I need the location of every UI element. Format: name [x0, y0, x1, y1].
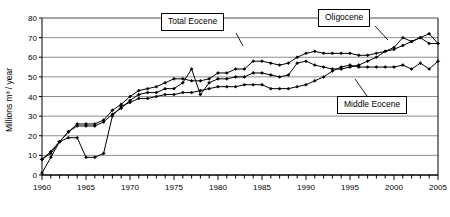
data-point — [155, 85, 158, 88]
data-point — [146, 87, 149, 90]
data-point — [252, 83, 255, 86]
data-point — [313, 79, 316, 82]
data-point — [155, 91, 158, 94]
data-point — [384, 66, 387, 69]
data-point — [357, 66, 360, 69]
data-point — [366, 66, 369, 69]
data-point — [234, 75, 237, 78]
series-line-middle-eocene — [42, 61, 438, 173]
data-point — [234, 85, 237, 88]
data-point — [410, 40, 413, 43]
svg-text:2005: 2005 — [429, 183, 447, 192]
data-point — [243, 75, 246, 78]
data-point — [322, 66, 325, 69]
data-point — [357, 54, 360, 57]
data-point — [173, 93, 176, 96]
svg-text:2000: 2000 — [385, 183, 403, 192]
data-point — [225, 77, 228, 80]
data-point — [349, 64, 352, 67]
callout-label-total-eocene[interactable]: Total Eocene — [161, 13, 224, 31]
data-point — [366, 60, 369, 63]
data-point — [146, 91, 149, 94]
data-point — [208, 87, 211, 90]
data-point — [225, 85, 228, 88]
data-point — [164, 93, 167, 96]
data-point — [278, 64, 281, 67]
data-point — [199, 79, 202, 82]
chart-container: 01020304050607080 1960196519701975198019… — [0, 0, 450, 217]
data-point — [261, 71, 264, 74]
data-point — [261, 83, 264, 86]
data-point — [340, 66, 343, 69]
data-point — [366, 54, 369, 57]
x-axis-tick-labels: 1960196519701975198019851990199520002005 — [33, 183, 447, 192]
data-point — [155, 95, 158, 98]
data-point — [401, 44, 404, 47]
data-point — [305, 60, 308, 63]
callout-label-oligocene[interactable]: Oligocene — [318, 9, 370, 27]
data-point — [181, 77, 184, 80]
svg-text:20: 20 — [28, 132, 37, 141]
data-point — [393, 66, 396, 69]
callout-label-middle-eocene[interactable]: Middle Eocene — [337, 96, 407, 114]
data-point — [217, 77, 220, 80]
data-point — [269, 87, 272, 90]
svg-text:10: 10 — [28, 151, 37, 160]
data-point — [181, 91, 184, 94]
svg-text:1980: 1980 — [209, 183, 227, 192]
data-point — [67, 136, 70, 139]
svg-text:30: 30 — [28, 112, 37, 121]
data-point — [93, 124, 96, 127]
data-point — [217, 85, 220, 88]
data-point — [322, 52, 325, 55]
svg-text:40: 40 — [28, 93, 37, 102]
y-axis-tick-labels: 01020304050607080 — [28, 14, 37, 180]
data-point — [296, 85, 299, 88]
data-point — [331, 52, 334, 55]
data-point — [146, 97, 149, 100]
svg-text:70: 70 — [28, 34, 37, 43]
svg-text:1965: 1965 — [77, 183, 95, 192]
data-point — [190, 79, 193, 82]
data-point — [305, 83, 308, 86]
data-point — [85, 124, 88, 127]
svg-text:1995: 1995 — [341, 183, 359, 192]
data-point — [305, 52, 308, 55]
data-point — [287, 87, 290, 90]
data-point — [76, 136, 79, 139]
data-point — [225, 71, 228, 74]
data-point — [164, 87, 167, 90]
data-point — [173, 77, 176, 80]
data-point — [313, 50, 316, 53]
data-point — [313, 64, 316, 67]
data-point — [137, 97, 140, 100]
svg-text:1970: 1970 — [121, 183, 139, 192]
svg-text:0: 0 — [33, 171, 38, 180]
svg-text:60: 60 — [28, 53, 37, 62]
data-point — [102, 152, 105, 155]
data-point — [278, 87, 281, 90]
data-point — [375, 66, 378, 69]
svg-text:50: 50 — [28, 73, 37, 82]
data-point — [190, 91, 193, 94]
y-axis-title: Millions m³ / year — [4, 68, 14, 132]
data-point — [93, 156, 96, 159]
svg-text:1960: 1960 — [33, 183, 51, 192]
data-point — [401, 64, 404, 67]
data-point — [234, 68, 237, 71]
data-point — [269, 73, 272, 76]
data-point — [164, 81, 167, 84]
data-point — [340, 52, 343, 55]
data-point — [261, 60, 264, 63]
data-point — [252, 71, 255, 74]
svg-text:1975: 1975 — [165, 183, 183, 192]
svg-text:1990: 1990 — [297, 183, 315, 192]
data-point — [349, 52, 352, 55]
data-point — [375, 52, 378, 55]
data-point — [278, 75, 281, 78]
data-point — [269, 62, 272, 65]
data-point — [85, 156, 88, 159]
svg-text:1985: 1985 — [253, 183, 271, 192]
svg-text:80: 80 — [28, 14, 37, 23]
data-point — [243, 83, 246, 86]
